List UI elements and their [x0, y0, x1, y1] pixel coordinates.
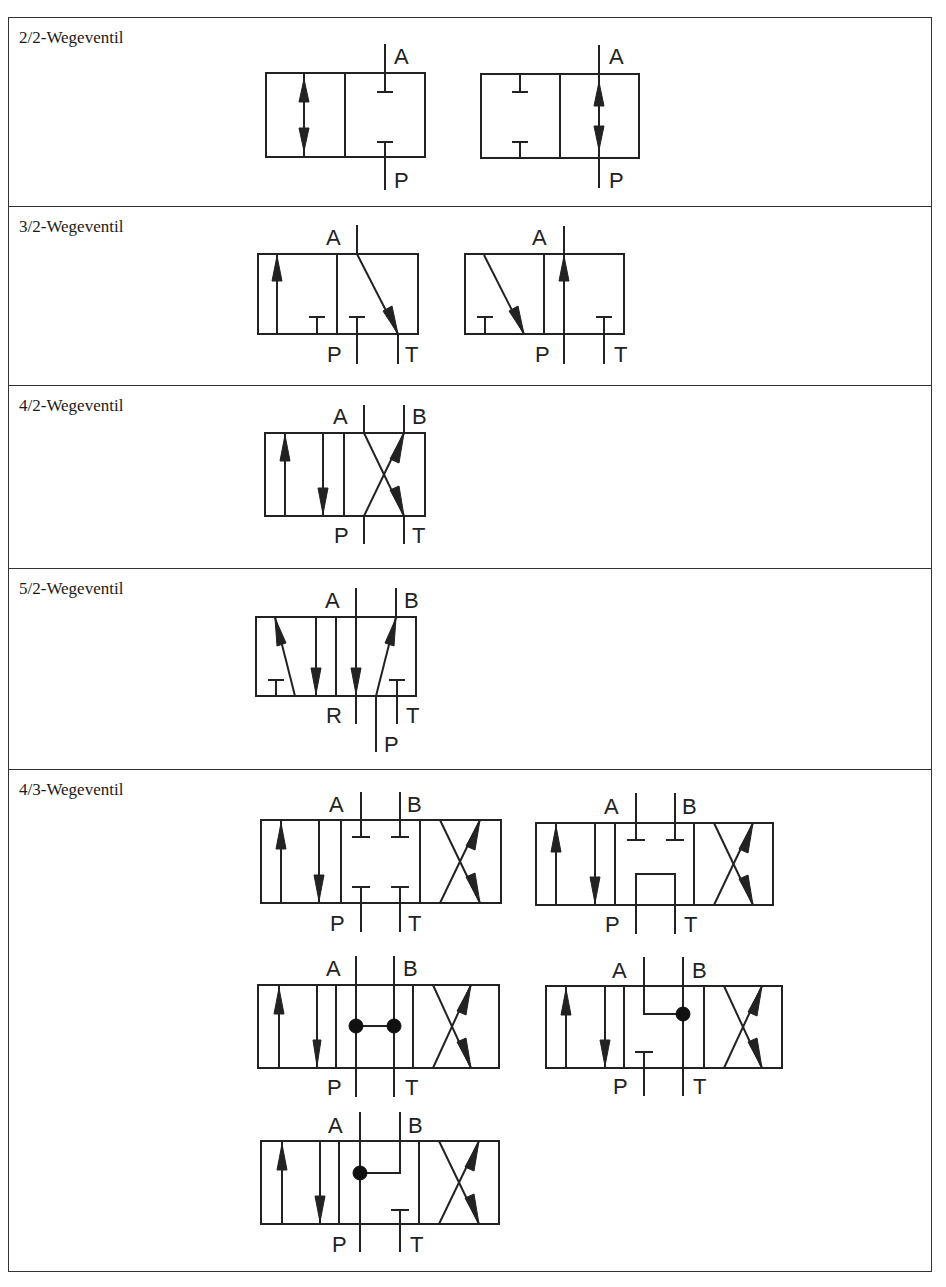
port-label-t: T — [693, 1074, 706, 1099]
port-label-p: P — [332, 1232, 347, 1257]
port-label-t: T — [412, 523, 425, 548]
port-label-a: A — [328, 1113, 343, 1138]
port-label-b: B — [412, 404, 427, 429]
port-label-p: P — [394, 168, 409, 193]
port-label-p: P — [605, 912, 620, 937]
port-label-b: B — [408, 1113, 423, 1138]
port-label-b: B — [403, 956, 418, 981]
4-2-valve: A B P T — [265, 404, 427, 548]
port-label-p: P — [613, 1074, 628, 1099]
port-label-p: P — [535, 342, 550, 367]
port-label-p: P — [327, 1075, 342, 1100]
valve-symbols: A P A P A P T — [0, 0, 946, 1287]
port-label-t: T — [405, 342, 418, 367]
port-label-b: B — [407, 792, 422, 817]
port-label-a: A — [532, 225, 547, 250]
port-label-a: A — [609, 44, 624, 69]
3-2-valve-normally-closed: A P T — [258, 225, 418, 367]
3-2-valve-normally-open: A P T — [465, 225, 627, 367]
port-label-t: T — [410, 1232, 423, 1257]
port-label-t: T — [684, 912, 697, 937]
port-label-b: B — [404, 588, 419, 613]
2-2-valve-normally-closed: A P — [266, 44, 425, 193]
4-3-valve-closed-center: A B P T — [261, 792, 501, 936]
port-label-a: A — [394, 44, 409, 69]
port-label-a: A — [325, 588, 340, 613]
4-3-valve-tandem-center: A B P T — [536, 793, 773, 937]
port-label-a: A — [329, 792, 344, 817]
port-label-a: A — [326, 956, 341, 981]
port-label-a: A — [604, 794, 619, 819]
port-label-b: B — [692, 958, 707, 983]
2-2-valve-normally-open: A P — [481, 44, 639, 193]
4-3-valve-float-center-b: A B P T — [261, 1112, 499, 1257]
5-2-valve: A B R T P — [256, 588, 419, 757]
port-label-p: P — [330, 911, 345, 936]
port-label-t: T — [406, 703, 419, 728]
port-label-a: A — [612, 958, 627, 983]
port-label-t: T — [405, 1075, 418, 1100]
4-3-valve-open-center: A B P T — [258, 956, 499, 1100]
port-label-t: T — [408, 911, 421, 936]
port-label-a: A — [333, 404, 348, 429]
port-label-a: A — [326, 225, 341, 250]
4-3-valve-float-center-a: A B P T — [546, 957, 782, 1099]
port-label-p: P — [384, 732, 399, 757]
port-label-t: T — [614, 342, 627, 367]
port-label-p: P — [327, 342, 342, 367]
port-label-p: P — [609, 168, 624, 193]
port-label-b: B — [682, 794, 697, 819]
port-label-r: R — [326, 703, 342, 728]
port-label-p: P — [334, 523, 349, 548]
